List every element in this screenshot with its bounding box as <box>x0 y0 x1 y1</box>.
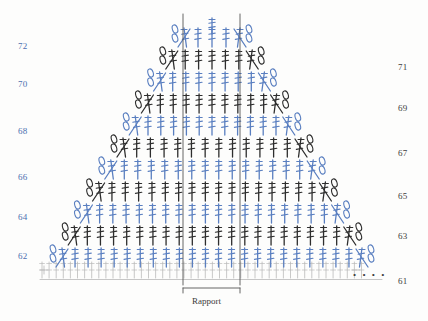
row-label-left-70: 70 <box>18 79 28 89</box>
row-label-right-61: 61 <box>398 276 408 286</box>
rapport-label: Rapport <box>192 296 221 306</box>
row-label-right-69: 69 <box>398 103 408 113</box>
chart-canvas: 727068666462716967656361 Rapport • • • • <box>0 0 428 321</box>
row-label-left-72: 72 <box>18 41 28 51</box>
row-label-right-71: 71 <box>398 62 408 72</box>
row-label-left-68: 68 <box>18 126 28 136</box>
row-label-right-63: 63 <box>398 231 408 241</box>
row-label-right-67: 67 <box>398 148 408 158</box>
row-label-left-62: 62 <box>18 251 28 261</box>
continuation-dots: • • • • <box>353 270 386 280</box>
row-label-right-65: 65 <box>398 191 408 201</box>
row-label-left-66: 66 <box>18 172 28 182</box>
row-label-left-64: 64 <box>18 212 28 222</box>
